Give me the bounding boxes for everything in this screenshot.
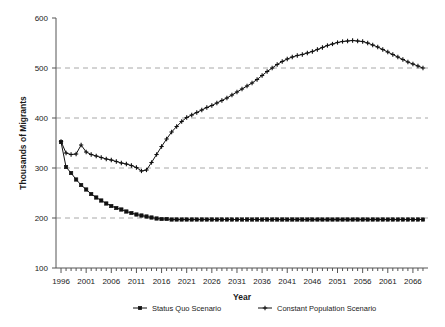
- data-point-marker: [220, 218, 223, 221]
- data-point-marker: [376, 45, 380, 49]
- series-plot-area: [59, 38, 425, 221]
- data-point-marker: [386, 50, 390, 54]
- y-tick-label: 300: [35, 164, 49, 173]
- data-point-marker: [396, 55, 400, 59]
- data-point-marker: [64, 165, 67, 168]
- data-point-marker: [205, 105, 209, 109]
- data-point-marker: [190, 113, 194, 117]
- chart-legend: Status Quo ScenarioConstant Population S…: [133, 304, 376, 313]
- data-point-marker: [225, 218, 228, 221]
- data-point-marker: [138, 306, 141, 309]
- data-point-marker: [235, 90, 239, 94]
- data-point-marker: [356, 218, 359, 221]
- data-point-marker: [320, 45, 324, 49]
- data-point-marker: [89, 192, 92, 195]
- data-point-marker: [315, 47, 319, 51]
- data-point-marker: [301, 218, 304, 221]
- data-point-marker: [411, 218, 414, 221]
- data-point-marker: [361, 39, 365, 43]
- data-point-marker: [371, 43, 375, 47]
- data-point-marker: [351, 218, 354, 221]
- data-point-marker: [401, 218, 404, 221]
- data-point-marker: [335, 40, 339, 44]
- data-point-marker: [225, 96, 229, 100]
- data-point-marker: [406, 218, 409, 221]
- data-point-marker: [210, 218, 213, 221]
- data-point-marker: [135, 213, 138, 216]
- data-point-marker: [129, 163, 133, 167]
- data-point-marker: [240, 218, 243, 221]
- data-point-marker: [110, 204, 113, 207]
- data-point-marker: [296, 218, 299, 221]
- legend-item-1[interactable]: Status Quo Scenario: [133, 304, 221, 313]
- data-point-marker: [74, 178, 77, 181]
- data-point-marker: [145, 215, 148, 218]
- x-tick-label: 2011: [128, 277, 146, 286]
- data-point-marker: [305, 51, 309, 55]
- data-point-marker: [105, 202, 108, 205]
- x-tick-label: 2001: [77, 277, 95, 286]
- data-point-marker: [200, 108, 204, 112]
- data-point-marker: [331, 218, 334, 221]
- data-point-marker: [326, 218, 329, 221]
- series-line: [61, 41, 423, 172]
- legend-item-2[interactable]: Constant Population Scenario: [258, 304, 376, 313]
- data-point-marker: [104, 157, 108, 161]
- y-axis: [52, 18, 56, 268]
- x-tick-label: 2061: [379, 277, 397, 286]
- data-point-marker: [220, 98, 224, 102]
- data-point-marker: [195, 218, 198, 221]
- data-point-marker: [64, 151, 68, 155]
- data-point-marker: [240, 87, 244, 91]
- x-tick-label: 2036: [253, 277, 271, 286]
- data-point-marker: [250, 218, 253, 221]
- data-point-marker: [325, 43, 329, 47]
- data-point-marker: [406, 60, 410, 64]
- x-tick-label: 2031: [228, 277, 246, 286]
- data-point-marker: [245, 218, 248, 221]
- data-point-marker: [245, 84, 249, 88]
- data-point-marker: [300, 52, 304, 56]
- data-point-marker: [235, 218, 238, 221]
- data-point-marker: [366, 41, 370, 45]
- data-point-marker: [345, 39, 349, 43]
- data-point-marker: [230, 93, 234, 97]
- data-point-marker: [263, 306, 268, 311]
- data-point-marker: [74, 152, 78, 156]
- data-point-marker: [285, 57, 289, 61]
- data-point-marker: [376, 218, 379, 221]
- legend-label: Status Quo Scenario: [152, 304, 221, 313]
- data-point-marker: [210, 103, 214, 107]
- y-axis-title: Thousands of Migrants: [18, 96, 28, 190]
- legend-label: Constant Population Scenario: [277, 304, 376, 313]
- data-point-marker: [120, 208, 123, 211]
- x-tick-labels: 1996200120062011201620212026203120362041…: [52, 277, 422, 286]
- data-point-marker: [330, 42, 334, 46]
- data-point-marker: [160, 217, 163, 220]
- data-point-marker: [321, 218, 324, 221]
- data-point-marker: [411, 62, 415, 66]
- data-point-marker: [150, 216, 153, 219]
- data-point-marker: [185, 218, 188, 221]
- data-point-marker: [155, 217, 158, 220]
- data-point-marker: [340, 39, 344, 43]
- data-point-marker: [260, 218, 263, 221]
- data-point-marker: [290, 55, 294, 59]
- data-point-marker: [416, 64, 420, 68]
- data-point-marker: [140, 214, 143, 217]
- data-point-marker: [280, 59, 284, 63]
- data-point-marker: [275, 218, 278, 221]
- y-tick-label: 400: [35, 114, 49, 123]
- data-point-marker: [401, 57, 405, 61]
- data-point-marker: [115, 206, 118, 209]
- data-point-marker: [341, 218, 344, 221]
- data-point-marker: [109, 158, 113, 162]
- data-point-marker: [230, 218, 233, 221]
- data-point-marker: [396, 218, 399, 221]
- data-point-marker: [265, 218, 268, 221]
- data-point-marker: [215, 218, 218, 221]
- chart-figure: 100200300400500600 199620012006201120162…: [0, 0, 445, 327]
- data-point-marker: [205, 218, 208, 221]
- data-point-marker: [346, 218, 349, 221]
- data-point-marker: [170, 218, 173, 221]
